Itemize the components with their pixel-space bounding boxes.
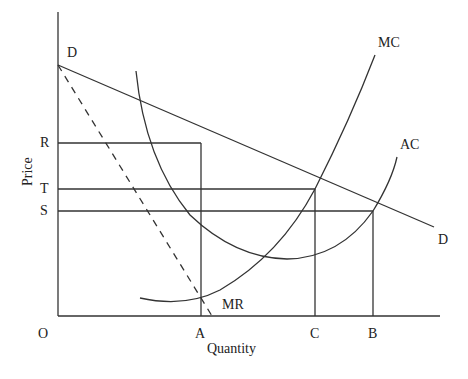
b-label: B: [368, 327, 377, 341]
c-label: C: [310, 327, 319, 341]
mr-label: MR: [222, 298, 244, 312]
average-cost-curve: [136, 71, 397, 259]
r-label: R: [40, 136, 49, 150]
mc-label: MC: [378, 36, 400, 50]
origin-label: O: [38, 327, 48, 341]
y-axis-label: Price: [20, 157, 36, 186]
x-axis-label: Quantity: [207, 342, 256, 356]
marginal-revenue-curve: [58, 65, 212, 316]
t-label: T: [40, 182, 49, 196]
s-label: S: [40, 204, 48, 218]
demand-label-end: D: [438, 233, 448, 247]
marginal-cost-curve: [140, 55, 375, 302]
demand-label-top: D: [67, 46, 77, 60]
a-label: A: [195, 327, 205, 341]
ac-label: AC: [400, 138, 419, 152]
